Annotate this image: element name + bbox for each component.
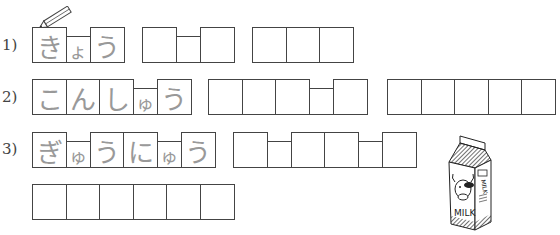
- answer-group-1-1: き ょ う: [32, 27, 125, 63]
- write-cell[interactable]: [324, 132, 359, 168]
- write-cell[interactable]: [32, 184, 67, 220]
- answer-group-3-2: [233, 132, 417, 168]
- question-number-1: 1): [2, 36, 17, 54]
- answer-group-2-3: [387, 79, 556, 115]
- trace-cell: う: [181, 132, 216, 168]
- write-cell-small[interactable]: [267, 141, 293, 168]
- answer-group-3-3: [32, 184, 235, 220]
- trace-cell: き: [32, 27, 67, 63]
- write-cell-small[interactable]: [309, 88, 335, 115]
- answer-group-2-1: こ ん し ゅ う: [32, 79, 192, 115]
- write-cell[interactable]: [521, 79, 556, 115]
- write-cell[interactable]: [319, 27, 354, 63]
- trace-cell: う: [157, 79, 192, 115]
- write-cell[interactable]: [166, 184, 201, 220]
- write-cell-small[interactable]: [358, 141, 384, 168]
- trace-cell: う: [90, 27, 125, 63]
- trace-cell: ぎ: [32, 132, 67, 168]
- trace-cell: う: [90, 132, 125, 168]
- answer-group-1-2: [142, 27, 235, 63]
- trace-cell: こ: [32, 79, 67, 115]
- write-cell[interactable]: [133, 184, 168, 220]
- write-cell[interactable]: [200, 27, 235, 63]
- write-cell[interactable]: [382, 132, 417, 168]
- answer-group-1-3: [252, 27, 354, 63]
- trace-cell: し: [99, 79, 134, 115]
- trace-cell-small: ゅ: [133, 88, 159, 115]
- write-cell[interactable]: [208, 79, 243, 115]
- question-number-3: 3): [2, 140, 17, 158]
- trace-cell-small: ょ: [66, 36, 92, 63]
- trace-cell-small: ゅ: [157, 141, 183, 168]
- write-cell[interactable]: [275, 79, 310, 115]
- write-cell[interactable]: [421, 79, 456, 115]
- question-number-2: 2): [2, 88, 17, 106]
- write-cell[interactable]: [242, 79, 277, 115]
- write-cell-small[interactable]: [176, 36, 202, 63]
- write-cell[interactable]: [233, 132, 268, 168]
- write-cell[interactable]: [142, 27, 177, 63]
- trace-cell-small: ゅ: [66, 141, 92, 168]
- carton-text-front: MILK: [454, 208, 476, 218]
- write-cell[interactable]: [200, 184, 235, 220]
- trace-cell: に: [123, 132, 158, 168]
- write-cell[interactable]: [387, 79, 422, 115]
- write-cell[interactable]: [99, 184, 134, 220]
- write-cell[interactable]: [252, 27, 287, 63]
- write-cell[interactable]: [66, 184, 101, 220]
- answer-group-3-1: ぎ ゅ う に ゅ う: [32, 132, 216, 168]
- trace-cell: ん: [66, 79, 101, 115]
- write-cell[interactable]: [333, 79, 368, 115]
- write-cell[interactable]: [454, 79, 489, 115]
- write-cell[interactable]: [291, 132, 326, 168]
- write-cell[interactable]: [286, 27, 321, 63]
- milk-carton-icon: MILK MILK: [445, 134, 515, 234]
- write-cell[interactable]: [488, 79, 523, 115]
- answer-group-2-2: [208, 79, 368, 115]
